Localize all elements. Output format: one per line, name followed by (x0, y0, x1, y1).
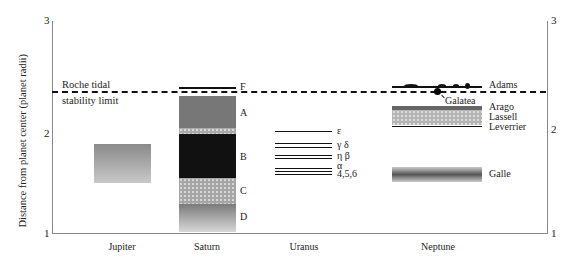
x-label-neptune: Neptune (398, 241, 478, 252)
label-adams: Adams (489, 79, 517, 90)
adams-arc-2 (438, 84, 446, 88)
y-tick-3-right: 3 (551, 14, 557, 26)
uranus-ring-eta (275, 155, 332, 156)
jupiter-ring (94, 144, 151, 183)
neptune-ring-lassell (392, 110, 482, 125)
label-d: D (240, 211, 247, 222)
label-456: 4,5,6 (337, 168, 357, 179)
saturn-ring-b (179, 134, 236, 178)
y-axis-label: Distance from planet center (planet radi… (17, 68, 28, 228)
y-tick-2-left: 2 (44, 127, 50, 139)
label-gamma-delta: γ δ (337, 139, 349, 150)
y-tick-2-right: 2 (551, 123, 557, 135)
adams-arc-4 (465, 83, 470, 89)
galatea-moon-icon (434, 88, 441, 95)
roche-label-line2: stability limit (62, 95, 118, 106)
label-galatea: Galatea (445, 95, 476, 106)
x-label-saturn: Saturn (167, 241, 247, 252)
label-galle: Galle (489, 168, 511, 179)
uranus-ring-beta (275, 158, 332, 159)
label-leverrier: Leverrier (489, 121, 526, 132)
label-f: F (240, 81, 246, 92)
uranus-ring-epsilon (275, 131, 332, 132)
y-tick-1-right: 1 (551, 227, 557, 239)
neptune-ring-leverrier (392, 126, 482, 127)
label-c: C (240, 185, 247, 196)
roche-label-line1: Roche tidal (62, 79, 110, 90)
uranus-ring-gamma (275, 143, 332, 144)
uranus-ring-4 (275, 168, 332, 169)
saturn-ring-d (179, 204, 236, 232)
plot-frame (52, 21, 548, 234)
saturn-ring-c (179, 178, 236, 204)
label-epsilon: ε (337, 125, 341, 136)
adams-arc-1 (404, 84, 418, 88)
uranus-ring-delta (275, 147, 332, 148)
x-label-jupiter: Jupiter (82, 241, 162, 252)
label-b: B (240, 151, 247, 162)
uranus-ring-5 (275, 171, 332, 172)
x-label-uranus: Uranus (264, 241, 344, 252)
saturn-ring-f (179, 87, 236, 89)
adams-arc-3 (453, 84, 459, 88)
neptune-ring-galle (392, 167, 482, 182)
roche-limit-line (52, 91, 546, 93)
uranus-ring-6 (275, 174, 332, 175)
y-tick-3-left: 3 (44, 14, 50, 26)
y-tick-1-left: 1 (44, 227, 50, 239)
saturn-ring-a (179, 96, 236, 128)
label-a: A (240, 107, 247, 118)
